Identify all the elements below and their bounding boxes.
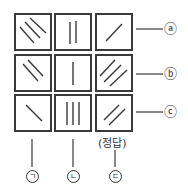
cell-a-digeut	[95, 13, 133, 51]
vertical-lines-2-icon	[56, 15, 90, 49]
diagonal-line-1-icon	[97, 15, 131, 49]
column-label-digeut: ㄷ	[109, 170, 122, 183]
vertical-line-1-icon	[56, 56, 90, 90]
diagonal-line-1-down-icon	[16, 96, 50, 130]
diagonal-lines-2-up-icon	[97, 96, 131, 130]
vertical-lines-3-icon	[56, 96, 90, 130]
cell-b-giyeok	[14, 54, 52, 92]
cell-b-digeut	[95, 54, 133, 92]
grid-diagram: ⓐ ⓑ ⓒ ㄱ ㄴ ㄷ (정답)	[0, 0, 188, 196]
cell-a-giyeok	[14, 13, 52, 51]
cell-c-nieun	[54, 94, 92, 132]
cell-b-nieun	[54, 54, 92, 92]
column-label-giyeok: ㄱ	[26, 170, 39, 183]
diagonal-lines-3-up-icon	[97, 56, 131, 90]
row-label-b: ⓑ	[164, 68, 175, 79]
diagonal-lines-3-icon	[16, 15, 50, 49]
cell-c-digeut	[95, 94, 133, 132]
row-label-a: ⓐ	[164, 23, 175, 34]
column-label-nieun: ㄴ	[67, 170, 80, 183]
cell-c-giyeok	[14, 94, 52, 132]
cell-a-nieun	[54, 13, 92, 51]
diagonal-lines-2-icon	[16, 56, 50, 90]
answer-note: (정답)	[98, 134, 127, 150]
row-label-c: ⓒ	[164, 106, 175, 117]
